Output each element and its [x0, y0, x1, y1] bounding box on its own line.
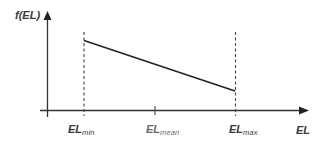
y-axis-label: f(EL): [15, 10, 40, 21]
tick-label-sub: min: [82, 128, 94, 137]
tick-label-sub: max: [243, 128, 257, 137]
tick-label-el-max: ELmax: [229, 124, 258, 135]
density-line: [84, 41, 235, 92]
tick-label-main: EL: [68, 123, 82, 135]
x-axis-arrow-icon: [299, 107, 309, 115]
x-axis-label: EL: [296, 125, 310, 136]
tick-label-main: EL: [146, 123, 160, 135]
diagram-canvas: f(EL) ELmin ELmean ELmax EL: [0, 0, 325, 141]
tick-label-el-min: ELmin: [68, 124, 94, 135]
tick-label-sub: mean: [160, 128, 179, 137]
tick-label-el-mean: ELmean: [146, 124, 179, 135]
y-axis-arrow-icon: [44, 11, 52, 20]
diagram-graphics: [0, 0, 325, 141]
tick-label-main: EL: [229, 123, 243, 135]
